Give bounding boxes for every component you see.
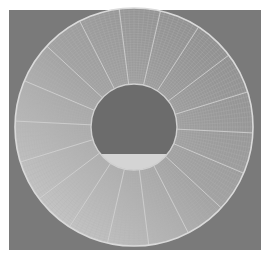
annular-disk bbox=[0, 0, 270, 260]
